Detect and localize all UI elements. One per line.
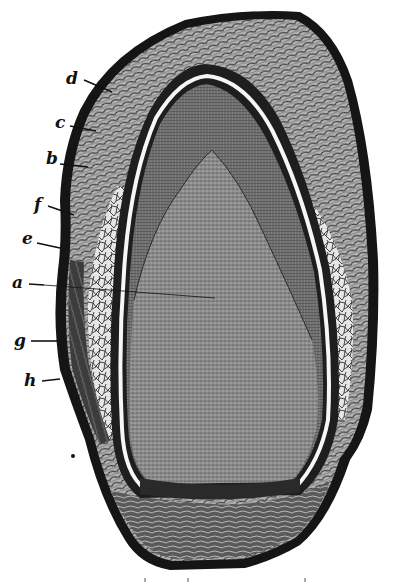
- label-text-e: e: [22, 228, 33, 248]
- label-text-f: f: [33, 194, 44, 214]
- ink-dot: [71, 454, 75, 458]
- label-text-h: h: [24, 370, 36, 390]
- label-h: h: [24, 370, 60, 390]
- label-text-d: d: [66, 68, 78, 88]
- bottom-ticks: [145, 578, 305, 582]
- label-text-g: g: [14, 330, 26, 350]
- cross-section-figure: d c b f e a g h: [0, 0, 393, 582]
- label-g: g: [14, 330, 60, 350]
- label-text-a: a: [12, 272, 23, 292]
- label-text-c: c: [55, 112, 66, 132]
- label-e: e: [22, 228, 60, 248]
- label-text-b: b: [46, 148, 58, 168]
